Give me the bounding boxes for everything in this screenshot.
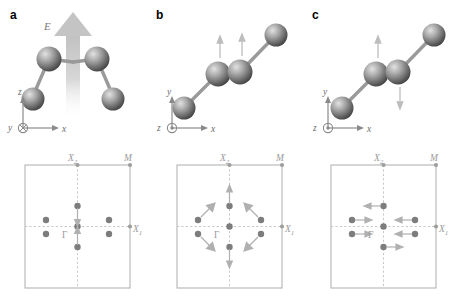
axis-label-normal-a: y [7,123,13,133]
panel-a: a [0,0,150,302]
atom-group-c [331,24,446,120]
panel-c: c [306,0,476,302]
axis-label-right-c: x [366,124,372,134]
brillouin-zone-b: X2 M X1 Γ [152,150,302,302]
field-label-E: E [43,20,51,32]
bz-point-gamma-c: Γ [368,230,374,240]
bz-point-x1-b: X1 [284,224,294,237]
bz-point-gamma-a: Γ [62,230,68,240]
bz-point-m-a: M [123,153,133,163]
bz-point-m-c: M [429,153,439,163]
bz-point-x2-b: X2 [219,153,230,166]
bz-point-x1-c: X1 [438,224,448,237]
molecule-diagram-a: E [0,0,150,150]
bz-corner-dots-c [381,163,438,229]
atom-group-b [173,24,288,120]
molecule-diagram-c: y x z [306,0,476,150]
axis-label-right-b: x [210,124,216,134]
caption-fragment-strip [0,292,476,302]
brillouin-zone-a: X2 M X1 Γ [0,150,150,302]
bz-corner-dots-b [227,163,284,229]
bz-point-x2-a: X2 [67,153,78,166]
field-arrow-icon [54,12,92,120]
displacement-arrows-b [217,34,245,58]
brillouin-zone-c: X2 M X1 Γ [306,150,476,302]
axis-label-up-c: y [322,87,328,97]
axis-label-up-b: y [166,87,172,97]
axis-label-up-a: z [17,87,22,97]
bz-point-x2-c: X2 [373,153,384,166]
bz-point-x1-a: X1 [132,224,142,237]
figure-root: a [0,0,476,302]
molecule-diagram-b: y x z [152,0,302,150]
panel-b: b [152,0,302,302]
axis-label-normal-b: z [156,123,161,133]
axis-label-normal-c: z [312,123,317,133]
bz-corner-dots-a [75,163,132,229]
axis-label-right-a: x [61,124,67,134]
bz-point-m-b: M [275,153,285,163]
bz-point-gamma-b: Γ [214,230,220,240]
